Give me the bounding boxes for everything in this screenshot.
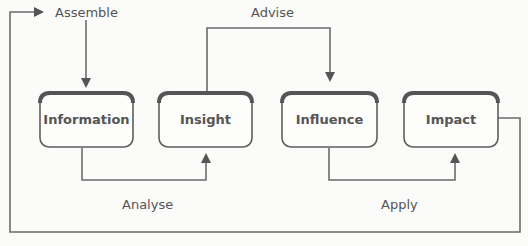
analyse-connector xyxy=(82,148,206,180)
apply-connector xyxy=(329,148,455,180)
edge-apply: Apply xyxy=(329,148,460,212)
node-influence: Influence xyxy=(282,92,377,147)
edge-analyse: Analyse xyxy=(82,148,211,212)
arrowhead-icon xyxy=(81,78,91,88)
edge-label-advise: Advise xyxy=(251,5,294,20)
edge-advise: Advise xyxy=(207,5,335,91)
advise-connector xyxy=(207,28,330,91)
node-label-influence: Influence xyxy=(296,112,364,127)
edge-label-analyse: Analyse xyxy=(122,197,173,212)
process-diagram: Assemble Advise Analyse Apply Informatio… xyxy=(0,0,528,246)
node-label-insight: Insight xyxy=(180,112,231,127)
node-insight: Insight xyxy=(159,92,252,147)
node-label-impact: Impact xyxy=(426,112,476,127)
arrowhead-icon xyxy=(34,7,44,17)
node-impact: Impact xyxy=(404,92,498,147)
node-label-information: Information xyxy=(43,112,129,127)
edge-label-assemble: Assemble xyxy=(55,5,118,20)
arrowhead-icon xyxy=(201,153,211,163)
node-information: Information xyxy=(40,92,133,147)
edge-label-apply: Apply xyxy=(381,197,418,212)
arrowhead-icon xyxy=(325,72,335,82)
arrowhead-icon xyxy=(450,153,460,163)
